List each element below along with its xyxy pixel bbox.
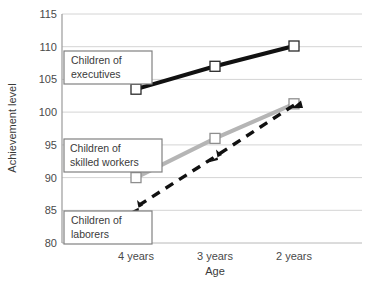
marker-executives-2-years <box>289 41 299 51</box>
gridlines <box>62 14 362 243</box>
y-tick-85: 85 <box>45 204 57 216</box>
marker-executives-3-years <box>210 61 220 71</box>
x-tick-3-years: 3 years <box>197 250 234 262</box>
chart-canvas: 115 110 105 100 95 90 85 80 Achievement … <box>0 0 381 289</box>
annotation-box-laborers-line2: laborers <box>71 228 109 240</box>
marker-skilled-3-years <box>210 133 220 143</box>
y-tick-110: 110 <box>39 41 57 53</box>
y-tick-115: 115 <box>39 8 57 20</box>
y-axis-title: Achievement level <box>6 83 18 172</box>
annotation-box-laborers: Children of laborers <box>64 211 152 244</box>
y-tick-105: 105 <box>39 73 57 85</box>
y-tick-90: 90 <box>45 172 57 184</box>
annotation-box-executives: Children of executives <box>64 51 152 84</box>
marker-executives-4-years <box>131 84 141 94</box>
series-executives <box>131 41 299 94</box>
annotation-box-skilled-workers-line1: Children of <box>70 142 121 154</box>
x-tick-4-years: 4 years <box>118 250 155 262</box>
y-tick-labels: 115 110 105 100 95 90 85 80 <box>39 8 57 249</box>
x-tick-labels: 4 years 3 years 2 years <box>118 250 313 262</box>
annotation-box-laborers-line1: Children of <box>71 214 122 226</box>
annotation-box-executives-line1: Children of <box>71 54 122 66</box>
y-tick-95: 95 <box>45 139 57 151</box>
annotation-box-skilled-workers-line2: skilled workers <box>70 156 139 168</box>
annotation-box-skilled-workers: Children of skilled workers <box>64 139 162 172</box>
x-axis-title: Age <box>205 265 225 277</box>
y-tick-100: 100 <box>39 106 57 118</box>
marker-skilled-4-years <box>131 173 141 183</box>
achievement-level-line-chart: 115 110 105 100 95 90 85 80 Achievement … <box>0 0 381 289</box>
annotation-box-executives-line2: executives <box>71 68 121 80</box>
y-tick-80: 80 <box>45 237 57 249</box>
x-tick-2-years: 2 years <box>276 250 313 262</box>
